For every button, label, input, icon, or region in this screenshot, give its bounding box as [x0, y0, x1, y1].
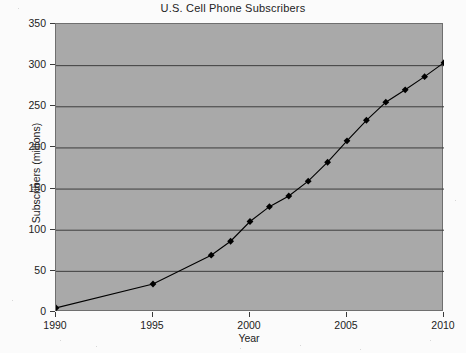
- y-tick-mark-100: [50, 229, 55, 230]
- data-point-2008: [402, 86, 409, 93]
- chart-plot-svg: [56, 24, 444, 312]
- x-tick-label-2005: 2005: [320, 319, 372, 331]
- chart-title: U.S. Cell Phone Subscribers: [0, 2, 466, 14]
- scan-speck: [430, 340, 431, 341]
- gridlines-group: [56, 66, 444, 272]
- y-tick-label-50: 50: [6, 264, 46, 276]
- x-tick-mark-2005: [346, 312, 347, 317]
- scan-speck: [455, 200, 456, 201]
- scan-speck: [300, 345, 301, 346]
- x-tick-label-1990: 1990: [29, 319, 81, 331]
- y-tick-label-300: 300: [6, 58, 46, 70]
- y-tick-mark-300: [50, 64, 55, 65]
- x-tick-label-1995: 1995: [126, 319, 178, 331]
- series-markers: [56, 59, 444, 311]
- x-tick-mark-2010: [443, 312, 444, 317]
- plot-area: [55, 23, 443, 311]
- scan-speck: [360, 349, 361, 350]
- data-point-1995: [150, 281, 157, 288]
- y-tick-mark-250: [50, 105, 55, 106]
- scan-speck: [200, 10, 201, 11]
- x-tick-mark-1990: [55, 312, 56, 317]
- scan-speck: [60, 340, 61, 341]
- x-axis-label: Year: [55, 332, 443, 344]
- x-tick-label-2010: 2010: [417, 319, 466, 331]
- y-tick-label-0: 0: [6, 305, 46, 317]
- scan-speck: [240, 348, 241, 349]
- data-point-1990: [56, 304, 59, 311]
- y-tick-mark-200: [50, 146, 55, 147]
- scan-speck: [96, 346, 97, 347]
- y-tick-mark-150: [50, 188, 55, 189]
- x-tick-mark-1995: [152, 312, 153, 317]
- data-series-group: [56, 59, 444, 311]
- y-axis-label: Subscribers (millions): [30, 93, 42, 253]
- scan-speck: [12, 300, 13, 301]
- y-tick-label-350: 350: [6, 17, 46, 29]
- chart-figure: U.S. Cell Phone Subscribers 050100150200…: [0, 0, 466, 353]
- x-tick-mark-2000: [249, 312, 250, 317]
- scan-speck: [18, 8, 19, 9]
- y-tick-mark-350: [50, 23, 55, 24]
- y-tick-mark-50: [50, 270, 55, 271]
- x-tick-label-2000: 2000: [223, 319, 275, 331]
